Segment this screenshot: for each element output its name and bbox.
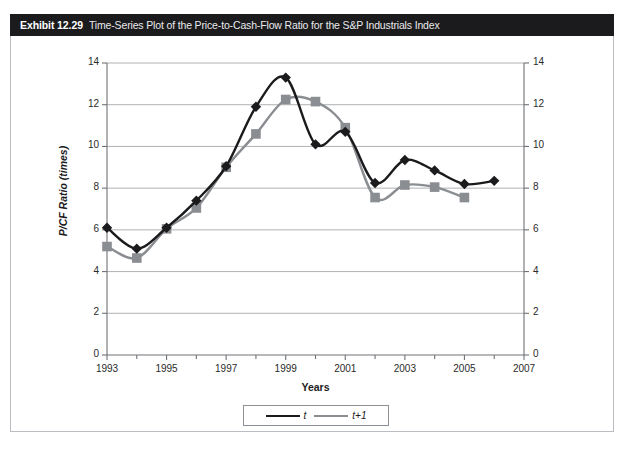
x-axis-title: Years xyxy=(107,381,524,393)
chart-legend: t t+1 xyxy=(243,405,389,426)
legend-swatch-t1 xyxy=(314,410,348,422)
legend-label-t1: t+1 xyxy=(352,410,366,421)
legend-label-t: t xyxy=(304,410,307,421)
exhibit-number: Exhibit 12.29 xyxy=(20,19,83,31)
exhibit-frame xyxy=(10,14,614,432)
legend-swatch-t xyxy=(266,410,300,422)
legend-item-t: t xyxy=(266,410,307,422)
exhibit-title: Time-Series Plot of the Price-to-Cash-Fl… xyxy=(89,19,440,31)
y-axis-title: P/CF Ratio (times) xyxy=(57,126,69,256)
exhibit-header: Exhibit 12.29 Time-Series Plot of the Pr… xyxy=(10,14,614,36)
legend-item-t1: t+1 xyxy=(314,410,366,422)
